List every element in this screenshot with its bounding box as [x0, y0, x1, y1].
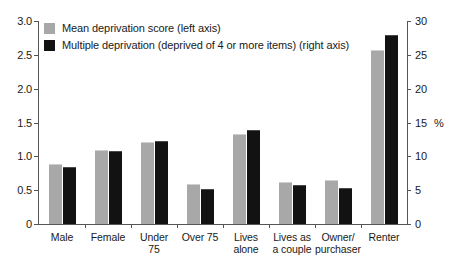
category-tick: [361, 224, 362, 228]
bar-group: [315, 21, 361, 224]
category-tick: [177, 224, 178, 228]
category-label-line: Under: [131, 231, 177, 243]
category-label-line: Male: [39, 231, 85, 243]
bar-multiple-deprivation: [109, 151, 122, 224]
bar-mean-deprivation: [141, 142, 154, 224]
left-axis-tick-label: 1.5: [17, 118, 32, 129]
right-axis-tick: [407, 156, 411, 157]
left-axis-tick-label: 3.0: [17, 16, 32, 27]
category-label-line: a couple: [269, 243, 315, 255]
right-axis-tick-label: 20: [415, 84, 427, 95]
bar-mean-deprivation: [187, 184, 200, 224]
left-axis-tick: [34, 190, 38, 191]
left-axis-tick: [34, 55, 38, 56]
left-axis-tick-label: 0: [26, 219, 32, 230]
right-axis-tick: [407, 21, 411, 22]
category-label-line: Lives: [223, 231, 269, 243]
bar-group: [223, 21, 269, 224]
category-tick: [85, 224, 86, 228]
bar-mean-deprivation: [95, 150, 108, 224]
left-axis-tick-label: 0.5: [17, 185, 32, 196]
bar-multiple-deprivation: [155, 141, 168, 224]
category-label: Renter: [361, 231, 407, 255]
right-axis-tick-label: 5: [415, 185, 421, 196]
plot-area: 00.51.01.52.02.53.0 051015%202530: [38, 21, 408, 224]
right-axis-unit-label: %: [434, 118, 444, 129]
bar-mean-deprivation: [49, 164, 62, 224]
category-label-line: Renter: [361, 231, 407, 243]
deprivation-bar-chart: Mean deprivation score (left axis) Multi…: [0, 0, 456, 266]
bar-group: [85, 21, 131, 224]
left-axis-tick-label: 2.5: [17, 50, 32, 61]
category-tick: [269, 224, 270, 228]
category-label: Lives asa couple: [269, 231, 315, 255]
category-label: Under75: [131, 231, 177, 255]
bar-group: [269, 21, 315, 224]
category-tick: [223, 224, 224, 228]
left-axis-tick: [34, 89, 38, 90]
category-label-line: Over 75: [177, 231, 223, 243]
left-axis-tick-label: 1.0: [17, 151, 32, 162]
category-tick: [315, 224, 316, 228]
category-label: Livesalone: [223, 231, 269, 255]
bar-groups: [39, 21, 407, 224]
category-label-line: purchaser: [315, 243, 361, 255]
right-axis-tick-label: 25: [415, 50, 427, 61]
bar-group: [177, 21, 223, 224]
left-axis-tick: [34, 123, 38, 124]
category-label-line: Lives as: [269, 231, 315, 243]
right-axis-tick-label: 0: [415, 219, 421, 230]
right-axis-tick: [407, 123, 411, 124]
bar-group: [361, 21, 407, 224]
bar-group: [39, 21, 85, 224]
bar-multiple-deprivation: [63, 167, 76, 224]
bar-multiple-deprivation: [201, 189, 214, 224]
bar-mean-deprivation: [371, 50, 384, 224]
bar-mean-deprivation: [279, 182, 292, 224]
bar-multiple-deprivation: [293, 185, 306, 224]
bar-mean-deprivation: [233, 134, 246, 224]
left-axis-tick: [34, 224, 38, 225]
category-label: Owner/purchaser: [315, 231, 361, 255]
bar-mean-deprivation: [325, 180, 338, 224]
category-label: Male: [39, 231, 85, 255]
right-axis-tick: [407, 55, 411, 56]
bar-multiple-deprivation: [247, 130, 260, 224]
bar-multiple-deprivation: [339, 188, 352, 224]
left-axis-tick-label: 2.0: [17, 84, 32, 95]
category-label-line: Owner/: [315, 231, 361, 243]
right-axis-tick-label: 10: [415, 151, 427, 162]
right-axis-tick: [407, 190, 411, 191]
category-label-line: 75: [131, 243, 177, 255]
right-axis-tick-label: 15: [415, 118, 427, 129]
bar-group: [131, 21, 177, 224]
right-axis-tick: [407, 89, 411, 90]
category-label-line: alone: [223, 243, 269, 255]
right-axis-tick: [407, 224, 411, 225]
left-axis-tick: [34, 21, 38, 22]
category-label-line: Female: [85, 231, 131, 243]
right-axis-tick-label: 30: [415, 16, 427, 27]
category-labels: MaleFemaleUnder75Over 75LivesaloneLives …: [39, 231, 407, 255]
category-tick: [131, 224, 132, 228]
category-label: Female: [85, 231, 131, 255]
left-axis-tick: [34, 156, 38, 157]
category-label: Over 75: [177, 231, 223, 255]
bar-multiple-deprivation: [385, 35, 398, 224]
